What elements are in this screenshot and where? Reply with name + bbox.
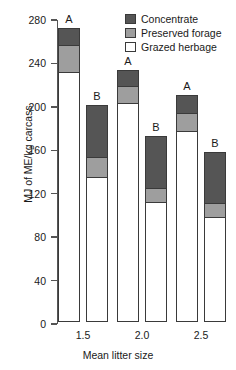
y-axis-tick-label: 80 xyxy=(0,231,46,243)
legend-swatch-icon xyxy=(125,28,136,38)
bar-significance-label: A xyxy=(117,55,139,67)
y-axis-tick xyxy=(51,323,57,324)
stacked-bar[interactable] xyxy=(58,28,80,324)
bar-segment-preserved-forage xyxy=(58,45,80,73)
legend: ConcentratePreserved forageGrazed herbag… xyxy=(125,12,222,54)
bar-segment-grazed-herbage xyxy=(145,202,167,321)
bar-significance-label: B xyxy=(145,121,167,133)
y-axis-tick-label: 240 xyxy=(0,57,46,69)
legend-label: Preserved forage xyxy=(141,27,222,39)
y-axis-tick xyxy=(51,193,57,194)
y-axis-tick xyxy=(51,106,57,107)
y-axis-tick xyxy=(51,150,57,151)
bar-segment-preserved-forage xyxy=(176,113,198,131)
stacked-bar[interactable] xyxy=(176,95,198,324)
legend-swatch-icon xyxy=(125,42,136,52)
bar-segment-grazed-herbage xyxy=(58,72,80,322)
bar-significance-label: A xyxy=(58,13,80,25)
bar-segment-concentrate xyxy=(145,136,167,189)
bar-significance-label: B xyxy=(204,137,226,149)
y-axis-tick-label: 0 xyxy=(0,318,46,330)
bar-chart: MJ of ME/kg carcass 04080120160200240280… xyxy=(0,0,236,370)
x-axis-tick-label: 2.5 xyxy=(181,329,221,341)
x-axis-tick-label: 1.5 xyxy=(63,329,103,341)
x-axis-tick-label: 2.0 xyxy=(122,329,162,341)
y-axis-tick-label: 40 xyxy=(0,275,46,287)
legend-swatch-icon xyxy=(125,14,136,24)
bar-segment-preserved-forage xyxy=(204,203,226,218)
stacked-bar[interactable] xyxy=(117,70,139,324)
bar-segment-concentrate xyxy=(117,70,139,87)
bar-segment-preserved-forage xyxy=(86,157,108,179)
legend-label: Grazed herbage xyxy=(141,41,217,53)
stacked-bar[interactable] xyxy=(145,136,167,324)
bar-significance-label: A xyxy=(176,80,198,92)
y-axis-tick xyxy=(51,236,57,237)
legend-item[interactable]: Concentrate xyxy=(125,12,222,25)
bar-segment-grazed-herbage xyxy=(117,103,139,321)
y-axis-tick xyxy=(51,19,57,20)
y-axis-tick-label: 200 xyxy=(0,101,46,113)
legend-item[interactable]: Preserved forage xyxy=(125,26,222,39)
stacked-bar[interactable] xyxy=(204,152,226,324)
bar-segment-preserved-forage xyxy=(145,188,167,203)
x-axis-title: Mean litter size xyxy=(0,349,236,361)
bar-segment-grazed-herbage xyxy=(204,217,226,321)
y-axis-tick xyxy=(51,280,57,281)
bar-segment-grazed-herbage xyxy=(176,131,198,322)
bar-segment-preserved-forage xyxy=(117,86,139,104)
bar-segment-grazed-herbage xyxy=(86,177,108,321)
y-axis-tick-label: 280 xyxy=(0,14,46,26)
bar-segment-concentrate xyxy=(176,95,198,115)
bar-significance-label: B xyxy=(86,90,108,102)
bar-segment-concentrate xyxy=(86,105,108,158)
stacked-bar[interactable] xyxy=(86,105,108,324)
y-axis-tick xyxy=(51,63,57,64)
bar-segment-concentrate xyxy=(204,152,226,204)
bar-segment-concentrate xyxy=(58,28,80,46)
legend-label: Concentrate xyxy=(141,13,198,25)
y-axis-tick-label: 120 xyxy=(0,188,46,200)
plot-area: ABABAB xyxy=(58,20,234,324)
legend-item[interactable]: Grazed herbage xyxy=(125,40,222,53)
y-axis-tick-label: 160 xyxy=(0,144,46,156)
